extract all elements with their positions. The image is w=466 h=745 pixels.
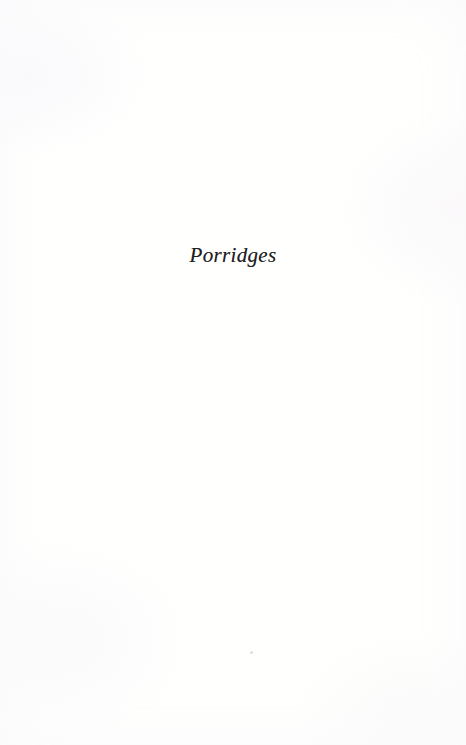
section-title-block: Porridges xyxy=(0,243,466,268)
scan-speck-artifact xyxy=(250,651,253,654)
paper-grain-texture xyxy=(0,0,466,745)
section-title: Porridges xyxy=(190,243,277,268)
book-page: Porridges xyxy=(0,0,466,745)
